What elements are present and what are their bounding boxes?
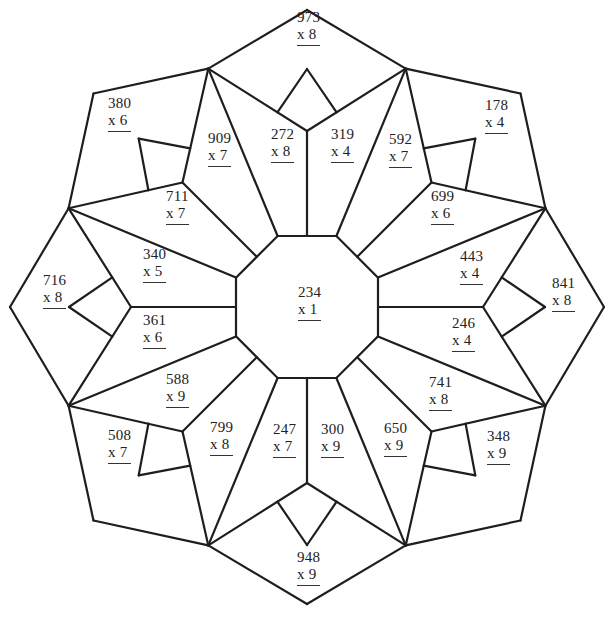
outer-edge bbox=[94, 69, 209, 94]
problem-number: 380 bbox=[108, 95, 131, 112]
region-problem-petal-300[interactable]: 300x 9 bbox=[321, 421, 344, 458]
region-problem-petal-361[interactable]: 361x 6 bbox=[143, 312, 166, 349]
problem-multiplier: x 9 bbox=[297, 566, 320, 586]
outer-edge bbox=[208, 545, 307, 604]
region-problem-top-right-pentagon[interactable]: 178x 4 bbox=[485, 97, 508, 134]
notch-edge bbox=[277, 502, 307, 545]
problem-multiplier: x 8 bbox=[297, 26, 320, 46]
problem-number: 178 bbox=[485, 97, 508, 114]
problem-number: 508 bbox=[108, 427, 131, 444]
region-problem-petal-711[interactable]: 711x 7 bbox=[166, 188, 189, 225]
notch-edge bbox=[502, 307, 545, 337]
problem-multiplier: x 9 bbox=[166, 388, 189, 408]
problem-multiplier: x 8 bbox=[429, 391, 452, 411]
notch-edge bbox=[424, 466, 476, 476]
problem-multiplier: x 4 bbox=[460, 265, 483, 285]
region-problem-petal-650[interactable]: 650x 9 bbox=[384, 420, 407, 457]
problem-multiplier: x 7 bbox=[389, 148, 412, 168]
region-problem-bottom-kite[interactable]: 948x 9 bbox=[297, 549, 320, 586]
notch-edge bbox=[466, 424, 476, 476]
problem-number: 348 bbox=[487, 428, 510, 445]
petal-spoke bbox=[183, 183, 257, 257]
outer-edge bbox=[406, 521, 521, 546]
petal-edge bbox=[69, 307, 131, 406]
problem-multiplier: x 8 bbox=[43, 289, 66, 309]
problem-multiplier: x 7 bbox=[108, 444, 131, 464]
outer-edge bbox=[94, 521, 209, 546]
notch-edge bbox=[502, 277, 545, 307]
region-problem-petal-319[interactable]: 319x 4 bbox=[331, 126, 354, 163]
outer-edge bbox=[545, 307, 604, 406]
petal-edge bbox=[307, 69, 406, 131]
region-problem-petal-340[interactable]: 340x 5 bbox=[143, 246, 166, 283]
notch-edge bbox=[307, 502, 337, 545]
outer-edge bbox=[307, 10, 406, 69]
problem-number: 973 bbox=[297, 9, 320, 26]
problem-number: 909 bbox=[208, 130, 231, 147]
problem-multiplier: x 7 bbox=[208, 147, 231, 167]
center-octagon-problem[interactable]: 234 x 1 bbox=[298, 284, 321, 321]
petal-edge bbox=[183, 432, 209, 546]
region-problem-petal-699[interactable]: 699x 6 bbox=[431, 188, 454, 225]
problem-number: 443 bbox=[460, 248, 483, 265]
notch-edge bbox=[307, 69, 337, 112]
outer-edge bbox=[521, 94, 546, 209]
region-problem-petal-592[interactable]: 592x 7 bbox=[389, 131, 412, 168]
region-problem-bottom-left-pentagon[interactable]: 508x 7 bbox=[108, 427, 131, 464]
region-problem-petal-246[interactable]: 246x 4 bbox=[452, 315, 475, 352]
problem-number: 588 bbox=[166, 371, 189, 388]
problem-number: 699 bbox=[431, 188, 454, 205]
region-problem-bottom-right-pentagon[interactable]: 348x 9 bbox=[487, 428, 510, 465]
outer-edge bbox=[10, 307, 69, 406]
problem-multiplier: x 5 bbox=[143, 263, 166, 283]
region-problem-top-left-pentagon[interactable]: 380x 6 bbox=[108, 95, 131, 132]
problem-multiplier: x 6 bbox=[431, 205, 454, 225]
notch-edge bbox=[69, 277, 112, 307]
notch-edge bbox=[139, 466, 191, 476]
outer-edge bbox=[406, 69, 521, 94]
petal-edge bbox=[483, 307, 545, 406]
problem-multiplier: x 8 bbox=[210, 436, 233, 456]
petal-edge bbox=[183, 69, 209, 183]
petal-edge bbox=[307, 483, 406, 545]
problem-number: 246 bbox=[452, 315, 475, 332]
region-problem-petal-247[interactable]: 247x 7 bbox=[273, 421, 296, 458]
notch-edge bbox=[466, 139, 476, 191]
star-ray bbox=[208, 378, 277, 545]
problem-multiplier: x 8 bbox=[552, 292, 575, 312]
problem-number: 650 bbox=[384, 420, 407, 437]
problem-multiplier: x 4 bbox=[485, 114, 508, 134]
problem-number: 361 bbox=[143, 312, 166, 329]
problem-number: 272 bbox=[271, 126, 294, 143]
notch-edge bbox=[139, 424, 149, 476]
problem-multiplier: x 9 bbox=[487, 445, 510, 465]
region-problem-petal-909[interactable]: 909x 7 bbox=[208, 130, 231, 167]
problem-multiplier: x 7 bbox=[166, 205, 189, 225]
problem-multiplier: x 4 bbox=[452, 332, 475, 352]
notch-edge bbox=[69, 307, 112, 337]
region-problem-petal-588[interactable]: 588x 9 bbox=[166, 371, 189, 408]
region-problem-petal-272[interactable]: 272x 8 bbox=[271, 126, 294, 163]
petal-spoke bbox=[357, 183, 431, 257]
problem-number: 247 bbox=[273, 421, 296, 438]
region-problem-top-kite[interactable]: 973x 8 bbox=[297, 9, 320, 46]
problem-number: 716 bbox=[43, 272, 66, 289]
problem-multiplier: x 6 bbox=[108, 112, 131, 132]
region-problem-petal-799[interactable]: 799x 8 bbox=[210, 419, 233, 456]
outer-edge bbox=[521, 406, 546, 521]
problem-multiplier: x 9 bbox=[384, 437, 407, 457]
notch-edge bbox=[424, 139, 476, 149]
region-problem-right-kite[interactable]: 841x 8 bbox=[552, 275, 575, 312]
outer-edge bbox=[69, 406, 94, 521]
notch-edge bbox=[277, 69, 307, 112]
problem-multiplier: x 1 bbox=[298, 301, 321, 321]
petal-edge bbox=[208, 483, 307, 545]
region-problem-left-kite[interactable]: 716x 8 bbox=[43, 272, 66, 309]
notch-edge bbox=[139, 139, 191, 149]
problem-number: 841 bbox=[552, 275, 575, 292]
outer-edge bbox=[307, 545, 406, 604]
petal-edge bbox=[208, 69, 307, 131]
region-problem-petal-443[interactable]: 443x 4 bbox=[460, 248, 483, 285]
problem-number: 741 bbox=[429, 374, 452, 391]
region-problem-petal-741[interactable]: 741x 8 bbox=[429, 374, 452, 411]
